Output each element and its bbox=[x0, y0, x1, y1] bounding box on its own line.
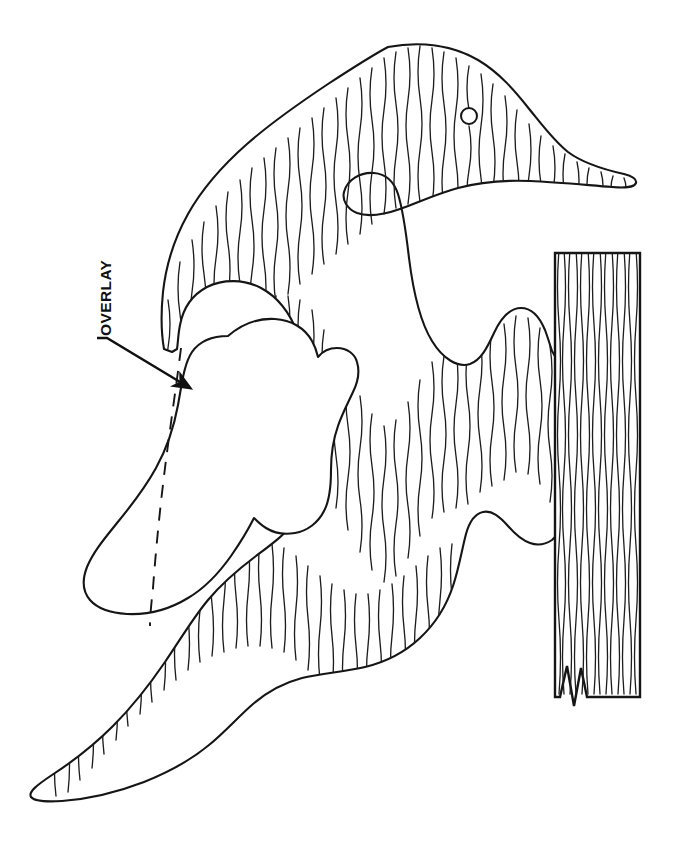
mounting-board-group bbox=[555, 250, 640, 706]
bird-eye-icon bbox=[461, 108, 477, 124]
overlay-label: OVERLAY bbox=[97, 259, 114, 336]
mounting-board-outline bbox=[555, 253, 640, 706]
pattern-drawing-canvas: OVERLAY bbox=[0, 0, 674, 868]
pattern-figure: OVERLAY bbox=[0, 0, 674, 868]
